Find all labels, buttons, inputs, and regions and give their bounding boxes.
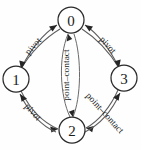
node-1[interactable]: 1 (3, 66, 29, 92)
edge-0-to-2 (73, 34, 80, 117)
node-3[interactable]: 3 (111, 65, 137, 91)
arrowhead-into-0-from-1 (49, 25, 57, 32)
node-2-label: 2 (68, 123, 76, 139)
node-2[interactable]: 2 (59, 117, 85, 143)
node-0-label: 0 (67, 13, 75, 29)
node-1-label: 1 (12, 72, 20, 88)
diagram-container: 0 1 3 2 pivot pivot pivot point–contact … (0, 0, 141, 150)
node-3-label: 3 (120, 71, 128, 87)
edge-label-lower-left: pivot (23, 101, 44, 122)
node-0[interactable]: 0 (58, 7, 84, 33)
edge-label-center: point–contact (61, 49, 71, 101)
edge-label-upper-left: pivot (23, 35, 44, 56)
state-transition-diagram: 0 1 3 2 pivot pivot pivot point–contact … (0, 0, 141, 150)
